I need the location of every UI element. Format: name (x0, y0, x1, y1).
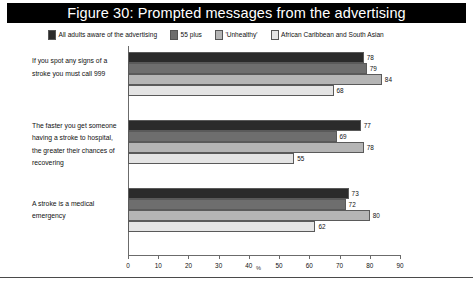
legend-item: 'Unhealthy' (215, 30, 258, 40)
bar (128, 85, 334, 96)
x-axis-tick-label: 90 (396, 262, 403, 269)
bar-group: If you spot any signs of a stroke you mu… (128, 52, 400, 96)
x-axis-tick (279, 255, 280, 259)
x-axis-tick-label: 50 (276, 262, 283, 269)
x-axis-tick (309, 255, 310, 259)
x-axis-tick-label: 20 (185, 262, 192, 269)
category-label: The faster you get someone having a stro… (32, 120, 124, 170)
x-axis-line (128, 255, 400, 256)
x-axis-tick-label: 70 (336, 262, 343, 269)
x-axis-tick-label: 0 (126, 262, 130, 269)
bar-row: 62 (128, 221, 400, 232)
bar (128, 142, 364, 153)
bar-value-label: 62 (318, 223, 325, 230)
x-axis-tick (219, 255, 220, 259)
legend-label: All adults aware of the advertising (59, 32, 158, 39)
x-axis-unit-label: % (256, 265, 261, 271)
legend-label: 'Unhealthy' (225, 32, 257, 39)
x-axis-tick-label: 60 (306, 262, 313, 269)
bar-row: 80 (128, 210, 400, 221)
x-axis-tick (188, 255, 189, 259)
bar-value-label: 79 (370, 65, 377, 72)
bar-value-label: 80 (373, 212, 380, 219)
bar-row: 69 (128, 131, 400, 142)
x-axis-tick-label: 40 (245, 262, 252, 269)
bar (128, 131, 337, 142)
x-axis-tick-label: 80 (366, 262, 373, 269)
legend-swatch-icon (271, 30, 279, 40)
bar-value-label: 55 (297, 155, 304, 162)
legend-swatch-icon (215, 30, 223, 40)
chart-legend: All adults aware of the advertising55 pl… (48, 29, 458, 41)
category-label: If you spot any signs of a stroke you mu… (32, 55, 124, 80)
bar-row: 72 (128, 199, 400, 210)
bar (128, 153, 294, 164)
legend-item: African Caribbean and South Asian (271, 30, 384, 40)
bar-value-label: 84 (385, 76, 392, 83)
bar (128, 120, 361, 131)
bar (128, 210, 370, 221)
bar (128, 74, 382, 85)
bar-row: 78 (128, 142, 400, 153)
x-axis-tick (370, 255, 371, 259)
legend-label: African Caribbean and South Asian (281, 32, 384, 39)
legend-swatch-icon (170, 30, 178, 40)
x-axis-tick-label: 10 (155, 262, 162, 269)
bar-row: 73 (128, 188, 400, 199)
bar-value-label: 78 (367, 144, 374, 151)
page-title: Figure 30: Prompted messages from the ad… (67, 5, 406, 21)
bar-value-label: 78 (367, 54, 374, 61)
bar (128, 52, 364, 63)
page-bottom-rule (0, 277, 473, 278)
bar-group: A stroke is a medical emergency73728062 (128, 188, 400, 232)
category-label: A stroke is a medical emergency (32, 198, 124, 223)
bar-group: The faster you get someone having a stro… (128, 120, 400, 164)
bar-value-label: 72 (349, 201, 356, 208)
bar-value-label: 68 (337, 87, 344, 94)
bar-value-label: 73 (352, 190, 359, 197)
bar-row: 55 (128, 153, 400, 164)
bar (128, 63, 367, 74)
x-axis-tick-label: 30 (215, 262, 222, 269)
bar-value-label: 77 (364, 122, 371, 129)
figure-page: Figure 30: Prompted messages from the ad… (0, 0, 473, 285)
legend-label: 55 plus (181, 32, 202, 39)
x-axis-tick (158, 255, 159, 259)
x-axis-tick (249, 255, 250, 259)
bar (128, 221, 315, 232)
bar-value-label: 69 (340, 133, 347, 140)
bar-row: 77 (128, 120, 400, 131)
figure-title-band: Figure 30: Prompted messages from the ad… (7, 3, 466, 23)
x-axis-tick (400, 255, 401, 259)
legend-swatch-icon (48, 30, 56, 40)
x-axis-tick (128, 255, 129, 259)
bar-row: 68 (128, 85, 400, 96)
chart-plot-area: 0102030405060708090%If you spot any sign… (128, 46, 400, 255)
bar (128, 199, 346, 210)
bar-row: 84 (128, 74, 400, 85)
bar-row: 78 (128, 52, 400, 63)
x-axis-tick (340, 255, 341, 259)
legend-item: 55 plus (170, 30, 202, 40)
legend-item: All adults aware of the advertising (48, 30, 157, 40)
bar (128, 188, 349, 199)
bar-row: 79 (128, 63, 400, 74)
